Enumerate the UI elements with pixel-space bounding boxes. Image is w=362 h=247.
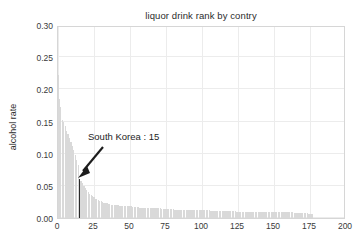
x-tick-label: 75 [160,221,169,231]
x-tick-label: 150 [266,221,280,231]
y-axis-ticks: 0.000.050.100.150.200.250.30 [0,26,53,219]
annotation-arrow-icon [72,144,106,182]
y-tick-label: 0.30 [1,21,53,31]
y-tick-label: 0.10 [1,150,53,160]
bar [312,214,313,218]
y-tick-label: 0.25 [1,53,53,63]
y-tick-label: 0.15 [1,118,53,128]
x-tick-label: 0 [55,221,60,231]
x-tick-label: 50 [124,221,133,231]
bar-series [58,27,344,218]
y-tick-label: 0.05 [1,182,53,192]
x-tick-label: 125 [230,221,244,231]
x-tick-label: 25 [88,221,97,231]
x-tick-label: 200 [338,221,352,231]
y-tick-label: 0.20 [1,85,53,95]
x-axis-ticks: 0255075100125150175200 [57,221,345,235]
chart-title: liquor drink rank by contry [57,10,345,21]
x-tick-label: 175 [302,221,316,231]
x-tick-label: 100 [194,221,208,231]
annotation-label: South Korea : 15 [88,131,159,142]
y-tick-label: 0.00 [1,214,53,224]
plot-area [57,26,345,219]
chart-figure: liquor drink rank by contry alcohol rate… [0,0,362,247]
